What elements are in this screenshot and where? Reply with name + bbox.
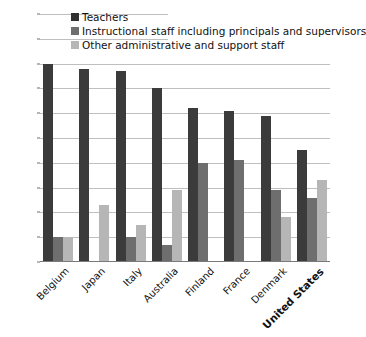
bar-group <box>188 14 218 262</box>
bar <box>43 64 53 262</box>
bar <box>281 217 291 262</box>
x-axis-line <box>40 261 330 262</box>
legend-swatch-icon <box>71 13 79 21</box>
x-axis-tick-label: Belgium <box>35 266 71 302</box>
legend-label: Instructional staff including principals… <box>82 26 366 37</box>
y-axis-tick-mark <box>37 113 40 114</box>
legend-swatch-icon <box>71 41 79 49</box>
bar-group <box>297 14 327 262</box>
chart-legend: TeachersInstructional staff including pr… <box>71 12 366 51</box>
legend-item[interactable]: Other administrative and support staff <box>71 40 366 51</box>
bar-group <box>43 14 73 262</box>
legend-label: Teachers <box>82 12 128 23</box>
x-axis-tick-label: Italy <box>121 266 143 288</box>
plot-area <box>40 14 330 262</box>
bar-group <box>152 14 182 262</box>
bar-group <box>224 14 254 262</box>
bar <box>307 198 317 262</box>
bar <box>297 150 307 262</box>
bar <box>162 245 172 262</box>
bar-groups <box>40 14 330 262</box>
x-axis-tick-label: Finland <box>184 266 216 298</box>
y-axis-tick-mark <box>37 38 40 39</box>
y-axis-tick-mark <box>37 237 40 238</box>
bar-group <box>79 14 109 262</box>
bar-group <box>261 14 291 262</box>
bar <box>234 160 244 262</box>
legend-swatch-icon <box>71 27 79 35</box>
y-axis-tick-mark <box>37 187 40 188</box>
x-axis-tick-label: Australia <box>142 266 180 304</box>
legend-item[interactable]: Instructional staff including principals… <box>71 26 366 37</box>
bar <box>99 205 109 262</box>
x-axis-labels: BelgiumJapanItalyAustraliaFinlandFranceD… <box>40 266 330 336</box>
x-axis-tick-label: France <box>222 266 253 297</box>
y-axis-tick-mark <box>37 162 40 163</box>
bar <box>224 111 234 262</box>
bar <box>172 190 182 262</box>
bar <box>79 69 89 262</box>
bar <box>152 88 162 262</box>
y-axis-tick-mark <box>37 63 40 64</box>
x-axis-tick-label: Japan <box>81 266 108 293</box>
y-axis-tick-mark <box>37 212 40 213</box>
bar <box>53 237 63 262</box>
y-axis-tick-mark <box>37 262 40 263</box>
bar <box>188 108 198 262</box>
bar <box>271 190 281 262</box>
bar <box>317 180 327 262</box>
bar <box>126 237 136 262</box>
legend-item[interactable]: Teachers <box>71 12 366 23</box>
bar-group <box>116 14 146 262</box>
bar <box>261 116 271 262</box>
legend-label: Other administrative and support staff <box>82 40 284 51</box>
y-axis-tick-mark <box>37 88 40 89</box>
y-axis-tick-mark <box>37 138 40 139</box>
bar <box>136 225 146 262</box>
y-axis-tick-mark <box>37 14 40 15</box>
bar <box>198 163 208 262</box>
bar <box>63 237 73 262</box>
bar <box>116 71 126 262</box>
